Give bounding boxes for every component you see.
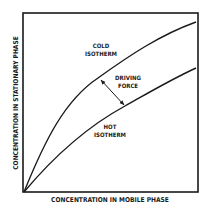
- driving-force-label-1: DRIVING: [115, 74, 141, 81]
- hot-isotherm-label-1: HOT: [104, 123, 117, 130]
- hot-isotherm-curve: [24, 68, 196, 192]
- y-axis-label: CONCENTRATION IN STATIONARY PHASE: [12, 36, 20, 170]
- cold-isotherm-label-2: ISOTHERM: [85, 50, 117, 57]
- cold-isotherm-label-1: COLD: [93, 42, 110, 49]
- driving-force-label-2: FORCE: [118, 82, 138, 89]
- hot-isotherm-label-2: ISOTHERM: [94, 131, 126, 138]
- x-axis-label: CONCENTRATION IN MOBILE PHASE: [51, 196, 169, 204]
- isotherm-diagram: COLD ISOTHERM DRIVING FORCE HOT ISOTHERM…: [0, 0, 208, 212]
- cold-isotherm-curve: [24, 22, 196, 192]
